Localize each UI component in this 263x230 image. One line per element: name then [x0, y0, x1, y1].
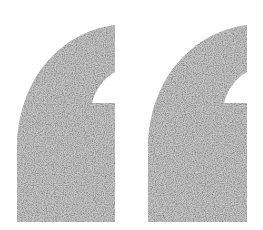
quote-icon-canvas: “ — [0, 0, 263, 230]
opening-quote-icon — [0, 0, 263, 230]
right-quote-mark — [148, 25, 247, 222]
left-quote-mark — [17, 25, 115, 222]
